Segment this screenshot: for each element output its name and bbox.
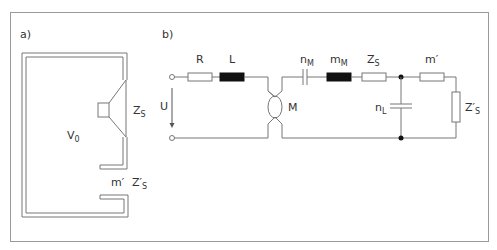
voltage-label: U bbox=[160, 100, 168, 113]
panel-b-label: b) bbox=[162, 28, 173, 41]
wire bbox=[282, 122, 456, 138]
resistor-R-label: R bbox=[196, 53, 204, 66]
resistor-R bbox=[188, 73, 212, 81]
resistor-Z-prime-S bbox=[452, 92, 460, 122]
speaker-cone-bottom bbox=[109, 117, 126, 137]
port-mass-label: m′ bbox=[111, 176, 125, 189]
panel-a: a) ZS V0 m′ Z′S bbox=[20, 28, 147, 217]
panel-a-label: a) bbox=[20, 28, 31, 41]
inductor-L-label: L bbox=[229, 53, 236, 66]
speaker-magnet bbox=[98, 103, 109, 117]
diagram-canvas: a) ZS V0 m′ Z′S b) U R L bbox=[0, 0, 497, 250]
volume-label: V0 bbox=[67, 129, 80, 144]
gyrator-ellipse bbox=[268, 96, 282, 118]
input-terminal-bottom bbox=[170, 136, 175, 141]
outer-frame bbox=[11, 13, 489, 242]
gyrator-bottom bbox=[268, 117, 282, 138]
inductor-mM bbox=[327, 73, 351, 81]
voltage-arrow-head bbox=[170, 123, 175, 128]
panel-b: b) U R L M nM mM ZS bbox=[160, 28, 480, 141]
wire bbox=[444, 77, 456, 92]
resistor-ZS bbox=[362, 73, 386, 81]
inductor-mM-label: mM bbox=[330, 53, 348, 68]
input-terminal-top bbox=[170, 75, 175, 80]
resistor-ZS-label: ZS bbox=[367, 53, 380, 68]
capacitor-nL-label: nL bbox=[375, 101, 387, 116]
speaker-cone-top bbox=[109, 80, 126, 103]
resistor-m-prime bbox=[420, 73, 444, 81]
inductor-L bbox=[220, 73, 244, 81]
capacitor-nM-label: nM bbox=[300, 53, 314, 68]
resistor-m-prime-label: m′ bbox=[425, 53, 439, 66]
port-impedance-label: Z′S bbox=[132, 176, 147, 191]
resistor-Z-prime-S-label: Z′S bbox=[465, 101, 480, 116]
gyrator-label: M bbox=[288, 101, 298, 114]
enclosure-port-upper bbox=[100, 137, 127, 169]
membrane-label: ZS bbox=[133, 104, 146, 119]
junction-bottom bbox=[399, 136, 404, 141]
